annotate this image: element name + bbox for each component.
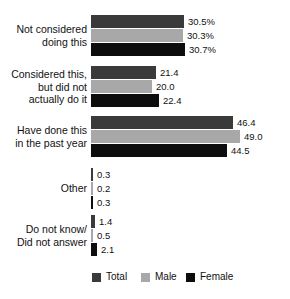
category-label: Other (0, 182, 87, 195)
legend-swatch-male-icon (141, 273, 150, 282)
bar-value-label: 0.5 (93, 229, 110, 242)
legend-item-total[interactable]: Total (92, 270, 127, 284)
bar-male (91, 130, 240, 143)
bar-value-label: 30.5% (184, 15, 215, 28)
bar-value-label: 1.4 (95, 215, 112, 228)
category-label: Considered this, but did not actually do… (0, 68, 87, 106)
legend-label: Female (200, 270, 233, 284)
bar-value-label: 21.4 (156, 66, 179, 79)
bar-value-label: 0.3 (93, 168, 110, 181)
chart-legend: TotalMaleFemale (0, 270, 290, 286)
bar-value-label: 30.7% (185, 43, 216, 56)
category-label: Do not know/ Did not answer (0, 223, 87, 248)
bar-total (91, 116, 233, 129)
bar-value-label: 20.0 (152, 80, 175, 93)
category-label: Have done this in the past year (0, 124, 87, 149)
legend-swatch-female-icon (186, 273, 195, 282)
bar-group: Do not know/ Did not answer1.40.52.1 (0, 215, 290, 256)
bar-value-label: 22.4 (159, 94, 182, 107)
bar-group: Other0.30.20.3 (0, 168, 290, 209)
legend-label: Male (155, 270, 177, 284)
bar-group: Considered this, but did not actually do… (0, 66, 290, 107)
bar-total (91, 66, 156, 79)
bar-value-label: 0.2 (93, 182, 110, 195)
bar-value-label: 44.5 (227, 144, 250, 157)
bar-value-label: 0.3 (93, 196, 110, 209)
legend-item-male[interactable]: Male (141, 270, 177, 284)
bar-value-label: 49.0 (240, 130, 263, 143)
legend-item-female[interactable]: Female (186, 270, 233, 284)
bar-group: Have done this in the past year46.449.04… (0, 116, 290, 157)
bar-female (91, 94, 159, 107)
legend-label: Total (106, 270, 127, 284)
bar-male (91, 29, 183, 42)
legend-swatch-total-icon (92, 273, 101, 282)
bar-female (91, 144, 227, 157)
bar-value-label: 30.3% (183, 29, 214, 42)
bar-group: Not considered doing this30.5%30.3%30.7% (0, 15, 290, 56)
grouped-bar-chart: Not considered doing this30.5%30.3%30.7%… (0, 0, 290, 299)
bar-value-label: 2.1 (97, 243, 114, 256)
bar-value-label: 46.4 (233, 116, 256, 129)
bar-male (91, 80, 152, 93)
bar-female (91, 43, 185, 56)
category-label: Not considered doing this (0, 23, 87, 48)
bar-total (91, 15, 184, 28)
